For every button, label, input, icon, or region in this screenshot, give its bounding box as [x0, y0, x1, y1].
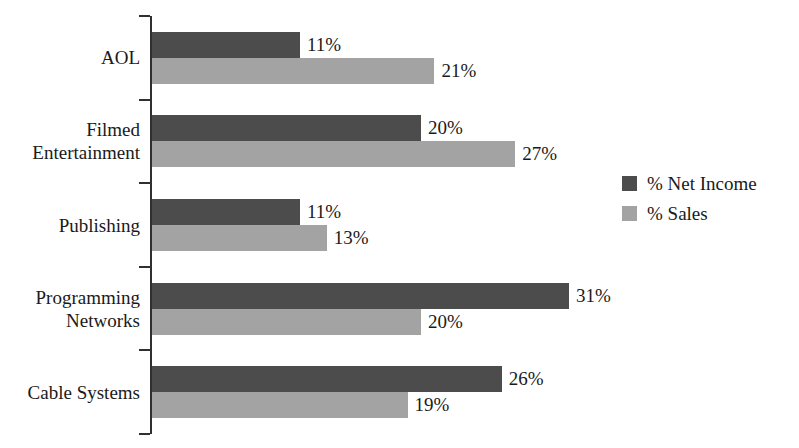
legend-item-sales: % Sales — [622, 198, 757, 228]
axis-tick — [139, 433, 150, 435]
bar-sales — [152, 141, 515, 167]
bar-chart: AOL11%21%Filmed Entertainment20%27%Publi… — [0, 0, 799, 448]
bar-value-label: 26% — [502, 366, 544, 392]
bar-value-label: 21% — [434, 58, 476, 84]
legend: % Net Income % Sales — [622, 168, 757, 228]
legend-label-sales: % Sales — [647, 204, 708, 223]
bar-sales — [152, 309, 421, 335]
bar-net-income — [152, 199, 300, 225]
axis-tick — [139, 266, 150, 268]
bar-value-label: 13% — [327, 225, 369, 251]
legend-item-net-income: % Net Income — [622, 168, 757, 198]
bar-value-label: 11% — [300, 199, 341, 225]
bar-net-income — [152, 32, 300, 58]
bar-value-label: 27% — [515, 141, 557, 167]
legend-swatch-sales-icon — [622, 206, 637, 221]
bar-value-label: 20% — [421, 309, 463, 335]
bar-sales — [152, 58, 434, 84]
bar-sales — [152, 225, 327, 251]
axis-tick — [139, 349, 150, 351]
bar-net-income — [152, 115, 421, 141]
category-label: Filmed Entertainment — [0, 118, 140, 164]
category-label: Cable Systems — [0, 381, 140, 404]
axis-tick — [139, 182, 150, 184]
category-label: AOL — [0, 46, 140, 69]
axis-tick — [139, 99, 150, 101]
legend-label-net-income: % Net Income — [647, 174, 757, 193]
category-label: Programming Networks — [0, 286, 140, 332]
bar-value-label: 19% — [408, 392, 450, 418]
bar-net-income — [152, 366, 502, 392]
category-label: Publishing — [0, 214, 140, 237]
bar-value-label: 20% — [421, 115, 463, 141]
bar-value-label: 11% — [300, 32, 341, 58]
bar-net-income — [152, 283, 569, 309]
legend-swatch-net-income-icon — [622, 176, 637, 191]
axis-tick — [139, 15, 150, 17]
bar-value-label: 31% — [569, 283, 611, 309]
bar-sales — [152, 392, 408, 418]
